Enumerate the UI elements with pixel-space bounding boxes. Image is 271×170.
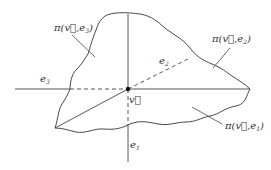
label-pi-v-e3: π(v⃗,e3) [53,22,93,34]
label-pi-v-e2: π(v⃗,e2) [211,33,251,45]
leader-e2 [213,48,230,68]
label-pi-v-e1: π(v⃗,e1) [224,120,264,132]
label-e2: e2 [159,55,169,67]
leader-e3 [72,35,95,57]
label-e3: e3 [40,73,50,85]
origin-point [126,87,130,91]
diagram-svg: e3 e2 e1 v⃗ π(v⃗,e3) π(v⃗,e2) π(v⃗,e1) [0,0,271,170]
diagram-canvas: e3 e2 e1 v⃗ π(v⃗,e3) π(v⃗,e2) π(v⃗,e1) [0,0,271,170]
label-origin-v: v⃗ [129,94,141,105]
leader-e1 [192,107,222,124]
label-e1: e1 [130,139,140,151]
diagonal-to-vertex [55,89,128,128]
